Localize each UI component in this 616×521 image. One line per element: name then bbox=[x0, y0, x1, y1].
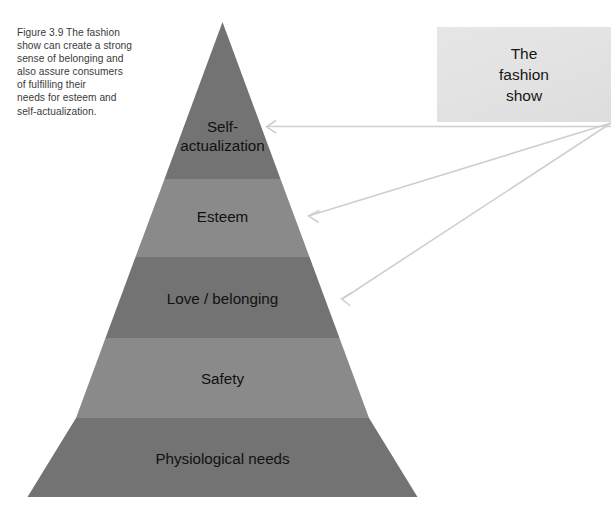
figure-canvas: Figure 3.9 The fashion show can create a… bbox=[0, 0, 616, 521]
arrow-line-esteem bbox=[310, 123, 611, 216]
arrow-line-love-belonging bbox=[343, 123, 611, 299]
callout-arrows bbox=[0, 0, 616, 521]
